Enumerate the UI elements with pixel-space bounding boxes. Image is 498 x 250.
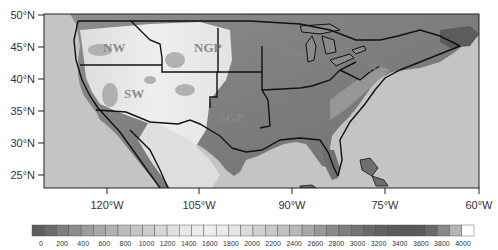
colorbar-swatch xyxy=(81,225,93,236)
colorbar-swatch xyxy=(228,225,240,236)
colorbar-swatch xyxy=(302,225,314,236)
colorbar-tick-label: 2400 xyxy=(286,240,302,247)
colorbar-swatch xyxy=(388,225,400,236)
colorbar-swatch xyxy=(437,225,449,236)
colorbar-tick-label: 4000 xyxy=(455,240,471,247)
colorbar-tick-label: 3200 xyxy=(371,240,387,247)
lat-label-40: 40°N xyxy=(10,73,35,85)
colorbar-swatch xyxy=(179,225,191,236)
map-panel: NW NGP SW SGP MW NE xyxy=(44,14,479,188)
colorbar-swatch xyxy=(106,225,118,236)
colorbar-swatch xyxy=(192,225,204,236)
colorbar-swatch xyxy=(339,225,351,236)
colorbar-tick-label: 600 xyxy=(98,240,110,247)
colorbar-swatch xyxy=(314,225,326,236)
colorbar-swatch xyxy=(155,225,167,236)
colorbar-tick-label: 800 xyxy=(120,240,132,247)
longitude-axis xyxy=(107,188,479,194)
lon-label-90w: 90°W xyxy=(278,199,306,211)
colorbar-swatch xyxy=(327,225,339,236)
colorbar-swatch xyxy=(44,225,56,236)
colorbar-swatch xyxy=(241,225,253,236)
colorbar-swatch xyxy=(351,225,363,236)
colorbar-swatch xyxy=(216,225,228,236)
colorbar-tick-label: 400 xyxy=(77,240,89,247)
colorbar-tick-label: 1400 xyxy=(181,240,197,247)
colorbar xyxy=(32,225,474,236)
lat-label-35: 35°N xyxy=(10,105,35,117)
colorbar-tick-label: 2800 xyxy=(329,240,345,247)
colorbar-swatch xyxy=(425,225,437,236)
colorbar-swatch xyxy=(376,225,388,236)
colorbar-swatch xyxy=(413,225,425,236)
region-label-sw: SW xyxy=(124,86,144,101)
colorbar-swatch xyxy=(278,225,290,236)
colorbar-swatch xyxy=(93,225,105,236)
colorbar-swatch xyxy=(449,225,461,236)
latitude-axis xyxy=(38,15,44,175)
lon-label-105w: 105°W xyxy=(182,199,216,211)
region-label-sgp: SGP xyxy=(219,110,244,125)
colorbar-swatch xyxy=(69,225,81,236)
lon-label-75w: 75°W xyxy=(371,199,399,211)
colorbar-swatch xyxy=(265,225,277,236)
region-label-ngp: NGP xyxy=(194,40,222,55)
colorbar-tick-label: 2600 xyxy=(308,240,324,247)
lon-label-120w: 120°W xyxy=(90,199,124,211)
colorbar-tick-label: 0 xyxy=(39,240,43,247)
colorbar-tick-label: 200 xyxy=(56,240,68,247)
colorbar-tick-label: 1200 xyxy=(160,240,176,247)
colorbar-swatch xyxy=(290,225,302,236)
colorbar-tick-label: 3000 xyxy=(350,240,366,247)
colorbar-tick-label: 3600 xyxy=(413,240,429,247)
colorbar-swatch xyxy=(32,225,44,236)
colorbar-tick-label: 2000 xyxy=(244,240,260,247)
lon-label-60w: 60°W xyxy=(465,199,493,211)
region-label-nw: NW xyxy=(103,40,125,55)
colorbar-labels: 0200400600800100012001400160018002000220… xyxy=(39,240,471,247)
colorbar-swatch xyxy=(167,225,179,236)
region-label-ne: NE xyxy=(368,60,386,75)
colorbar-swatch xyxy=(462,225,474,236)
colorbar-swatch xyxy=(204,225,216,236)
colorbar-swatch xyxy=(143,225,155,236)
colorbar-swatch xyxy=(57,225,69,236)
colorbar-tick-label: 1000 xyxy=(139,240,155,247)
colorbar-tick-label: 1800 xyxy=(223,240,239,247)
colorbar-swatch xyxy=(364,225,376,236)
lat-label-45: 45°N xyxy=(10,41,35,53)
lat-label-50: 50°N xyxy=(10,9,35,21)
lat-label-30: 30°N xyxy=(10,137,35,149)
colorbar-tick-label: 3800 xyxy=(434,240,450,247)
colorbar-tick-label: 1600 xyxy=(202,240,218,247)
colorbar-swatch xyxy=(130,225,142,236)
colorbar-swatch xyxy=(253,225,265,236)
colorbar-swatch xyxy=(118,225,130,236)
region-label-mw: MW xyxy=(280,46,305,61)
lat-label-25: 25°N xyxy=(10,169,35,181)
colorbar-tick-label: 3400 xyxy=(392,240,408,247)
elevation-map-figure: NW NGP SW SGP MW NE 50°N 45°N 40°N 35°N … xyxy=(0,0,498,250)
colorbar-swatch xyxy=(400,225,412,236)
colorbar-tick-label: 2200 xyxy=(265,240,281,247)
